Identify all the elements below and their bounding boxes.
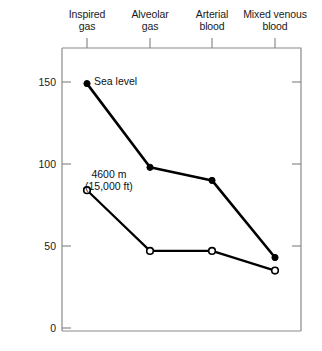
annotation-altitude: 4600 m (15,000 ft) bbox=[85, 168, 133, 192]
po2-cascade-chart: Inspired gas Alveolar gas Arterial blood… bbox=[0, 0, 322, 351]
series-markers-altitude bbox=[84, 187, 279, 274]
data-point-inspired-gas bbox=[84, 81, 90, 87]
data-point-arterial-blood bbox=[209, 177, 215, 183]
annotation-sea-level: Sea level bbox=[94, 75, 137, 87]
plot-svg bbox=[0, 0, 322, 351]
data-point-alveolar-gas bbox=[147, 248, 154, 255]
data-point-arterial-blood bbox=[209, 248, 216, 255]
data-point-mixed-venous-blood bbox=[272, 254, 278, 260]
series-line-altitude bbox=[87, 190, 275, 270]
data-point-alveolar-gas bbox=[147, 164, 153, 170]
data-point-mixed-venous-blood bbox=[272, 267, 279, 274]
